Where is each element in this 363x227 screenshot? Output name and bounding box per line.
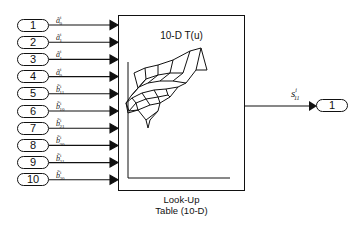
signal-sub: 0 [59, 73, 62, 78]
signal-sup: i [60, 135, 61, 140]
input-arrow-icon [110, 175, 118, 184]
output-signal-sub: 11 [294, 95, 300, 101]
input-arrow-icon [110, 89, 118, 98]
inport-7[interactable]: 7 [17, 122, 49, 135]
signal-sub: 1 [59, 38, 62, 43]
input-arrow-icon [110, 72, 118, 81]
input-signal-label: b̃i10 [56, 100, 64, 114]
input-arrow-icon [110, 55, 118, 64]
input-signal-label: ãi0 [56, 14, 62, 28]
signal-sub: 30 [59, 176, 64, 181]
signal-sup: i [60, 118, 61, 123]
input-signal-label: ãi0 [56, 66, 62, 80]
input-arrow-icon [110, 124, 118, 133]
input-arrow-icon [110, 107, 118, 116]
input-arrow-icon [110, 158, 118, 167]
signal-sup: i [60, 170, 61, 175]
inport-6[interactable]: 6 [17, 105, 49, 118]
signal-sup: i [60, 15, 61, 20]
signal-sub: 31 [59, 159, 64, 164]
input-arrow-icon [110, 38, 118, 47]
outport-1[interactable]: 1 [316, 99, 348, 112]
signal-sub: 10 [59, 107, 64, 112]
signal-sup: i [60, 84, 61, 89]
signal-sup: i [60, 49, 61, 54]
input-arrow-icon [110, 21, 118, 30]
signal-sup: i [60, 101, 61, 106]
signal-sub: 20 [59, 142, 64, 147]
3d-surface-plot-icon [118, 15, 245, 191]
output-signal-sup: i [295, 87, 297, 93]
signal-sub: 1 [59, 56, 62, 61]
inport-8[interactable]: 8 [17, 139, 49, 152]
inport-9[interactable]: 9 [17, 156, 49, 169]
input-arrow-icon [110, 141, 118, 150]
lookup-table-block[interactable]: 10-D T(u) [118, 15, 245, 191]
input-signal-label: ãi1 [56, 48, 62, 62]
input-signal-label: ãi1 [56, 31, 62, 45]
input-signal-label: b̃i20 [56, 134, 64, 148]
inport-10[interactable]: 10 [17, 173, 49, 186]
signal-sup: i [60, 67, 61, 72]
signal-sup: i [60, 32, 61, 37]
input-signal-label: b̃i21 [56, 117, 64, 131]
signal-sub: 11 [59, 90, 64, 95]
inport-5[interactable]: 5 [17, 87, 49, 100]
inport-2[interactable]: 2 [17, 36, 49, 49]
inport-3[interactable]: 3 [17, 53, 49, 66]
signal-sub: 21 [59, 124, 64, 129]
inport-1[interactable]: 1 [17, 19, 49, 32]
input-signal-label: b̃i11 [56, 83, 64, 97]
output-signal-label: si11 [291, 87, 300, 101]
caption-line-1: Look-Up [118, 194, 245, 205]
caption-line-2: Table (10-D) [118, 205, 245, 216]
input-signal-label: b̃i30 [56, 169, 64, 183]
signal-sub: 0 [59, 21, 62, 26]
signal-sup: i [60, 153, 61, 158]
input-signal-label: b̃i31 [56, 152, 64, 166]
block-caption: Look-Up Table (10-D) [118, 194, 245, 216]
inport-4[interactable]: 4 [17, 70, 49, 83]
